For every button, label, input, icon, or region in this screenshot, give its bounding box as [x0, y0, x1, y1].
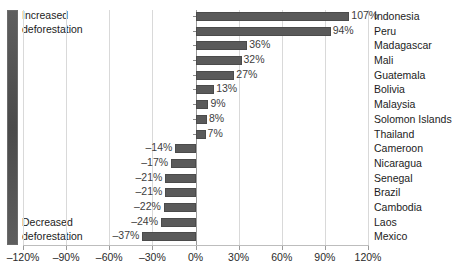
- deforestation-scale-gauge: [7, 10, 18, 245]
- bar-row: –14%: [23, 142, 368, 157]
- x-tick-mark: [282, 246, 283, 250]
- deforestation-bar-chart: Increased deforestation Decreased defore…: [0, 0, 463, 271]
- bar-value-label: 27%: [236, 68, 257, 81]
- gridline-120: [368, 10, 369, 245]
- bar-row: 13%: [23, 83, 368, 98]
- category-labels: IndonesiaPeruMadagascarMaliGuatemalaBoli…: [374, 10, 463, 245]
- bar-value-label: 8%: [209, 112, 224, 125]
- x-tick-label: 60%: [271, 251, 292, 263]
- bar-rows: 107%94%36%32%27%13%9%8%7%–14%–17%–21%–21…: [23, 10, 368, 245]
- x-tick-label: –30%: [139, 251, 166, 263]
- bar-row: –37%: [23, 230, 368, 245]
- category-label-bolivia: Bolivia: [374, 83, 405, 96]
- bar-value-label: –22%: [134, 200, 161, 213]
- x-axis: –120%–90%–60%–30%0%30%60%90%120%: [0, 246, 463, 268]
- category-label-indonesia: Indonesia: [374, 10, 420, 23]
- category-label-peru: Peru: [374, 25, 396, 38]
- bar-row: 36%: [23, 39, 368, 54]
- bar-row: –17%: [23, 157, 368, 172]
- bar-mali: [196, 56, 242, 65]
- x-tick-label: 0%: [188, 251, 203, 263]
- category-label-cameroon: Cameroon: [374, 142, 423, 155]
- x-tick-mark: [368, 246, 369, 250]
- category-label-guatemala: Guatemala: [374, 69, 425, 82]
- x-tick-label: –60%: [96, 251, 123, 263]
- x-tick-mark: [152, 246, 153, 250]
- bar-malaysia: [196, 100, 209, 109]
- bar-row: 94%: [23, 25, 368, 40]
- category-label-senegal: Senegal: [374, 172, 413, 185]
- bar-value-label: –21%: [135, 185, 162, 198]
- plot-area: 107%94%36%32%27%13%9%8%7%–14%–17%–21%–21…: [23, 10, 368, 245]
- bar-row: 8%: [23, 113, 368, 128]
- category-label-mali: Mali: [374, 54, 393, 67]
- bar-row: –21%: [23, 172, 368, 187]
- bar-solomon-islands: [196, 115, 208, 124]
- category-label-mexico: Mexico: [374, 230, 407, 243]
- bar-value-label: 32%: [244, 53, 265, 66]
- bar-madagascar: [196, 41, 248, 50]
- category-label-laos: Laos: [374, 216, 397, 229]
- bar-value-label: –14%: [146, 141, 173, 154]
- bar-cameroon: [175, 144, 195, 153]
- bar-brazil: [165, 188, 195, 197]
- category-label-thailand: Thailand: [374, 128, 414, 141]
- x-tick-mark: [109, 246, 110, 250]
- x-tick-label: 90%: [314, 251, 335, 263]
- bar-value-label: 36%: [249, 38, 270, 51]
- bar-value-label: 7%: [208, 127, 223, 140]
- bar-row: 9%: [23, 98, 368, 113]
- category-label-madagascar: Madagascar: [374, 39, 432, 52]
- x-tick-mark: [23, 246, 24, 250]
- bar-senegal: [165, 174, 195, 183]
- bar-value-label: –21%: [135, 171, 162, 184]
- bar-row: –21%: [23, 186, 368, 201]
- x-tick-mark: [196, 246, 197, 250]
- bar-row: 32%: [23, 54, 368, 69]
- x-tick-mark: [325, 246, 326, 250]
- bar-value-label: 13%: [216, 82, 237, 95]
- bar-guatemala: [196, 71, 235, 80]
- bar-peru: [196, 27, 331, 36]
- bar-nicaragua: [171, 159, 195, 168]
- x-tick-label: –120%: [7, 251, 40, 263]
- bar-cambodia: [164, 203, 196, 212]
- x-tick-label: –90%: [53, 251, 80, 263]
- bar-value-label: 9%: [210, 97, 225, 110]
- category-label-malaysia: Malaysia: [374, 98, 415, 111]
- bar-mexico: [142, 232, 195, 241]
- bar-row: –22%: [23, 201, 368, 216]
- category-label-solomon-islands: Solomon Islands: [374, 113, 452, 126]
- bar-row: 107%: [23, 10, 368, 25]
- bar-value-label: –37%: [112, 229, 139, 242]
- bar-value-label: –17%: [141, 156, 168, 169]
- bar-indonesia: [196, 12, 350, 21]
- category-label-brazil: Brazil: [374, 186, 400, 199]
- category-label-cambodia: Cambodia: [374, 201, 422, 214]
- bar-value-label: 94%: [333, 24, 354, 37]
- bar-bolivia: [196, 85, 215, 94]
- bar-laos: [161, 218, 196, 227]
- bar-row: 27%: [23, 69, 368, 84]
- bar-thailand: [196, 130, 206, 139]
- bar-value-label: –24%: [131, 215, 158, 228]
- x-tick-mark: [239, 246, 240, 250]
- bar-row: 7%: [23, 128, 368, 143]
- x-tick-label: 30%: [228, 251, 249, 263]
- x-tick-label: 120%: [355, 251, 382, 263]
- x-tick-mark: [66, 246, 67, 250]
- bar-row: –24%: [23, 216, 368, 231]
- category-label-nicaragua: Nicaragua: [374, 157, 422, 170]
